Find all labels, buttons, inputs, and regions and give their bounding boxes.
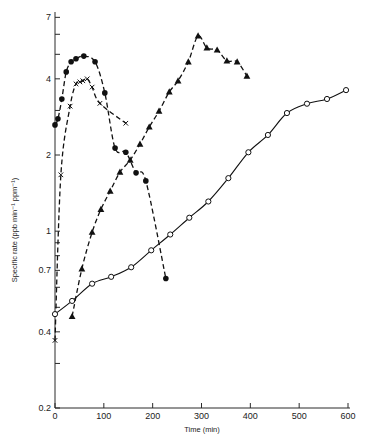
series-markers <box>52 32 348 342</box>
y-tick-label: 0.4 <box>38 327 51 337</box>
y-tick-label: 1 <box>46 226 51 236</box>
open-circle-marker <box>69 298 74 303</box>
filled-circle-marker <box>52 122 58 128</box>
open-circle-marker <box>149 248 154 253</box>
filled-circle-marker <box>73 56 79 62</box>
open-circle-marker <box>90 281 95 286</box>
triangle-marker <box>98 206 105 212</box>
filled-circle-marker <box>143 178 149 184</box>
y-tick-label: 0.2 <box>38 403 51 413</box>
x-tick-label: 0 <box>52 411 57 421</box>
x-axis-ticks: 0100200300400500600 <box>52 403 355 421</box>
triangle-marker <box>78 265 85 271</box>
triangle-marker <box>214 46 221 52</box>
y-tick-label: 2 <box>46 150 51 160</box>
x-tick-label: 100 <box>96 411 111 421</box>
filled-circle-marker <box>63 69 69 75</box>
triangle-marker <box>146 123 153 129</box>
series-lines <box>55 36 346 341</box>
y-tick-label: 4 <box>46 74 51 84</box>
x-tick-label: 300 <box>194 411 209 421</box>
open-circle-marker <box>206 199 211 204</box>
filled-circle-marker <box>59 96 65 102</box>
open-circles-curve <box>55 90 346 314</box>
x-tick-label: 400 <box>243 411 258 421</box>
x-tick-label: 600 <box>340 411 355 421</box>
filled-circle-marker <box>133 170 139 176</box>
open-circle-marker <box>246 150 251 155</box>
filled-circle-marker <box>112 145 118 151</box>
filled-triangles-curve <box>72 36 247 317</box>
open-circle-marker <box>304 101 309 106</box>
x-tick-label: 200 <box>145 411 160 421</box>
filled-circle-marker <box>68 59 74 65</box>
triangle-marker <box>195 32 202 38</box>
filled-circle-marker <box>81 53 87 59</box>
filled-circle-marker <box>102 90 108 96</box>
triangle-marker <box>156 108 163 114</box>
open-circle-marker <box>52 312 57 317</box>
open-circle-marker <box>168 232 173 237</box>
y-axis-label: Specific rate (ppb min⁻¹ ppm⁻¹) <box>10 177 19 282</box>
filled-circle-marker <box>55 116 61 122</box>
open-circle-marker <box>265 132 270 137</box>
triangle-marker <box>137 140 144 146</box>
filled-circle-marker <box>92 59 98 65</box>
open-circle-marker <box>226 176 231 181</box>
y-axis-ticks: 0.20.40.71247 <box>38 12 60 413</box>
open-circle-marker <box>343 88 348 93</box>
open-circle-marker <box>284 110 289 115</box>
crosses-curve <box>55 79 126 341</box>
triangle-marker <box>107 187 114 193</box>
x-axis-label: Time (min) <box>184 425 220 434</box>
filled-circles-curve <box>55 56 166 278</box>
cross-marker <box>90 85 95 90</box>
filled-circle-marker <box>163 276 169 282</box>
open-circle-marker <box>129 265 134 270</box>
cross-marker <box>124 121 129 126</box>
x-tick-label: 500 <box>292 411 307 421</box>
filled-circle-marker <box>123 149 129 155</box>
triangle-marker <box>185 58 192 64</box>
y-tick-label: 0.7 <box>38 265 51 275</box>
open-circle-marker <box>109 274 114 279</box>
cross-marker <box>98 101 103 106</box>
cross-marker <box>85 77 90 82</box>
triangle-marker <box>244 73 251 79</box>
triangle-marker <box>69 313 76 319</box>
specific-rate-chart: 0.20.40.71247 0100200300400500600 Time (… <box>0 0 369 441</box>
y-tick-label: 7 <box>46 12 51 22</box>
open-circle-marker <box>187 215 192 220</box>
open-circle-marker <box>324 96 329 101</box>
triangle-marker <box>89 229 96 235</box>
